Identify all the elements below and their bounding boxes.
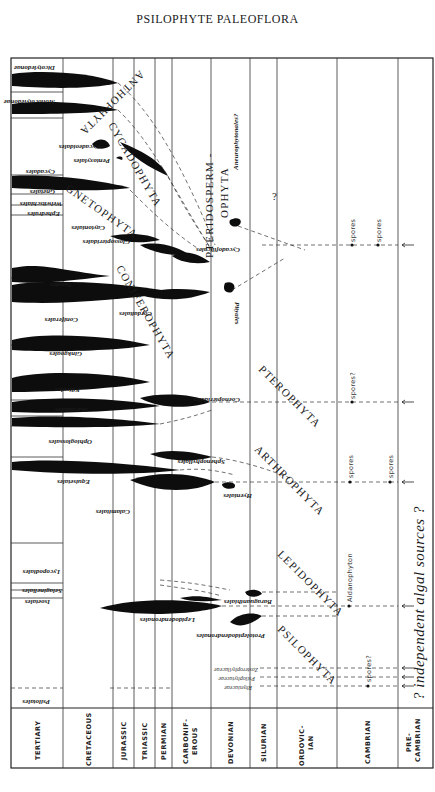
taxon-label: Filicales [55,386,80,394]
phylum-label: PTEROPHYTA [257,363,324,430]
period-label-cretaceous: CRETACEOUS [85,712,93,766]
spores-label: spores [375,218,383,242]
spindle-ophioglossales [12,416,160,427]
taxon-label: Sphenophyllales [177,458,225,466]
taxon-label: Pityales [233,302,241,325]
taxon-label: Equisetales [57,478,91,486]
taxon-label: Marattiales [55,406,89,414]
taxon-label: Monocotyledonae [4,98,56,106]
taxon-label: Cycadales [26,168,55,176]
spores-label: spores? [365,655,373,682]
spindle-hyeniales [222,482,235,488]
period-label-precambrian-2: CAMBRIAN [414,718,422,762]
spindle-filicales [12,373,150,392]
period-label-tertiary: TERTIARY [34,720,42,760]
period-label-silurian: SILURIAN [260,723,268,762]
spores-label: spores [347,454,355,478]
taxon-label: Psilotales [22,698,50,706]
taxon-label: Dicotyledonae [14,64,56,72]
taxon-label: Baraguanthiales [223,598,273,606]
taxon-label: Lepidodendronales [140,616,196,624]
taxon-label: Rhyniaceae [224,685,253,691]
taxon-label: Isoetales [24,598,51,606]
taxon-label: Calamitales [96,508,131,516]
taxon-label: Ginkgoales [49,350,82,358]
taxon-label: Protolepidodendronales [196,632,265,640]
taxon-label: Lycopodiales [22,568,61,576]
taxon-label: Welwitschiales [19,200,62,208]
taxon-label: Zosterophyllaceae [214,667,258,673]
period-label-permian: PERMIAN [160,722,168,760]
taxon-label: Glossopteridales [82,238,130,246]
aldanophyton-label: Aldanophyton [346,553,354,602]
period-axis: TERTIARY CRETACEOUS JURASSIC TRIASSIC PE… [34,712,422,766]
taxon-label: Ephedrales [27,210,61,218]
phylum-label: LEPIDOPHYTA [276,548,347,619]
algal-sources-label: ? independent algal sources ? [411,506,427,700]
phylum-label: PSILOPHYTA [276,623,340,687]
taxon-label: Taxales [50,281,72,289]
spindle-calamitales [130,474,215,490]
spindle-pityales [224,282,234,292]
paleoflora-diagram: Dicotyledonae Monocotyledonae Cycadeoida… [0,0,435,792]
taxon-label: Hyeniales [223,492,253,500]
taxon-label: Coniferales [44,316,78,324]
period-label-triassic: TRIASSIC [141,722,149,760]
spores-label: spores? [349,372,357,399]
taxon-label: Aneurophytonales? [232,113,240,171]
taxon-label: Coenopteridales [193,396,240,404]
period-label-cambrian: CAMBRIAN [364,720,372,764]
taxon-label: Cycadeoidales [59,143,100,151]
phylum-label: PTERIDOSPERM - [203,152,215,258]
spindle-lepidodendronales [100,600,222,614]
spindle-dicotyledonae [12,72,118,88]
taxon-label: Selaginellales [22,587,62,595]
spindle-isoetales [180,596,222,601]
question-mark: ? [272,190,278,202]
spindle-aneurophytonales [229,218,240,226]
period-label-jurassic: JURASSIC [120,721,128,761]
period-label-carboniferous: CARBONIF- [182,719,190,764]
spindle-pentoxylales [116,157,123,160]
period-label-precambrian: PRE- [405,733,413,752]
phylum-label: ARTHROPHYTA [253,443,328,518]
taxon-label: Caytoniales [71,224,105,232]
phylum-label: OPHYTA [218,167,230,218]
spindle-taxales [12,266,110,283]
period-label-ordovician-2: IAN [307,735,315,750]
period-label-ordovician: ORDOVIC- [298,725,306,766]
taxon-label: Pentoxylales [73,157,110,165]
spindle-baraguanthiales [245,590,262,597]
spindle-ginkgoales [12,335,150,351]
spores-label: spores [387,454,395,478]
period-dividers [63,58,398,768]
spores-label: spores [349,218,357,242]
period-label-carboniferous-2: EROUS [191,727,199,755]
taxon-label: Psilophytaceae [218,676,256,682]
taxon-label: Gnetales [29,188,55,196]
period-label-devonian: DEVONIAN [227,721,235,764]
taxon-label: Ophioglossales [48,438,92,446]
spindle-protolepidodendronales [230,614,262,626]
